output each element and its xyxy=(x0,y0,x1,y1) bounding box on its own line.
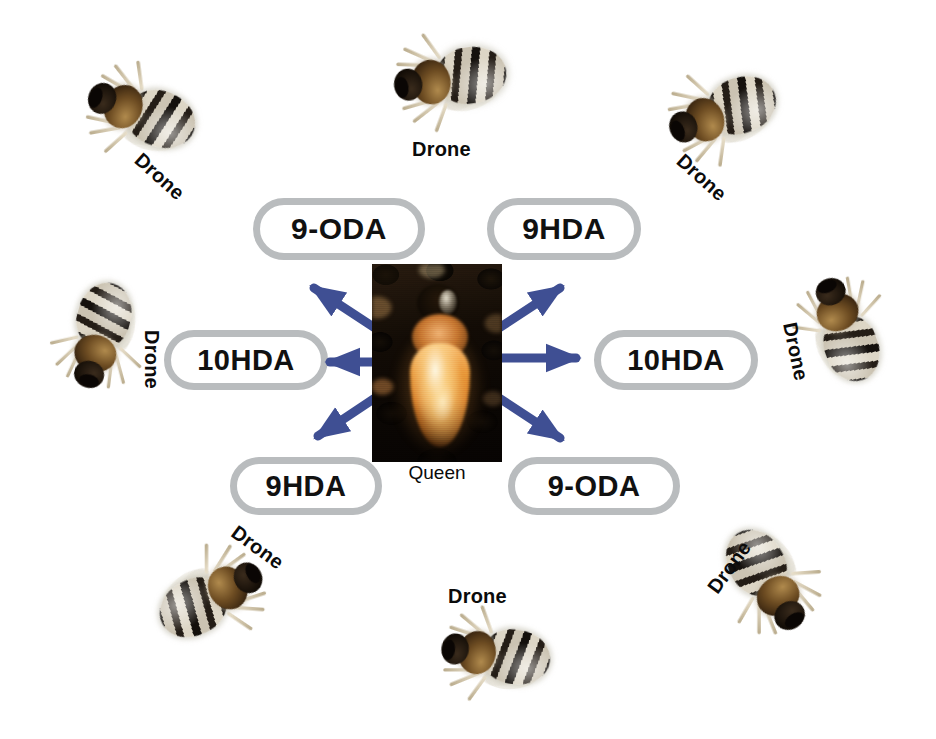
drone-bee xyxy=(41,270,154,401)
pheromone-pill-bottom-right[interactable]: 9-ODA xyxy=(508,457,680,515)
bee-leg xyxy=(718,137,726,167)
drone-label-top-center: Drone xyxy=(412,138,471,161)
pheromone-label-text: 10HDA xyxy=(627,344,725,377)
pheromone-label-text: 10HDA xyxy=(197,344,295,377)
bee-leg xyxy=(737,596,755,624)
pheromone-label-text: 9HDA xyxy=(522,212,606,246)
drone-bee xyxy=(385,23,515,131)
bee-leg xyxy=(226,611,253,631)
pheromone-label-text: 9HDA xyxy=(266,470,347,503)
pheromone-pill-top-left[interactable]: 9-ODA xyxy=(253,198,425,260)
bee-leg xyxy=(685,74,710,97)
drone-bee xyxy=(433,601,558,705)
bee-leg xyxy=(467,675,487,701)
bee-leg xyxy=(791,570,821,576)
bee-leg xyxy=(136,61,144,91)
arrow-upper-right xyxy=(496,288,560,330)
pheromone-pill-bottom-left[interactable]: 9HDA xyxy=(230,457,382,515)
bee-leg xyxy=(118,346,142,368)
arrow-lower-left xyxy=(318,396,378,436)
pheromone-label-text: 9-ODA xyxy=(548,470,641,503)
pheromone-pill-middle-right[interactable]: 10HDA xyxy=(594,330,758,390)
figure-canvas: DroneDroneDroneDroneDroneDroneDroneDrone… xyxy=(0,0,936,739)
drone-label-middle-left: Drone xyxy=(140,330,163,389)
photo-grain xyxy=(372,264,502,462)
queen-caption: Queen xyxy=(372,462,502,484)
pheromone-label-text: 9-ODA xyxy=(291,212,387,246)
queen-bee-photograph xyxy=(372,264,502,462)
bee-leg xyxy=(103,131,128,154)
pheromone-pill-middle-left[interactable]: 10HDA xyxy=(164,330,328,390)
bee-leg xyxy=(860,294,882,318)
arrow-upper-left xyxy=(314,288,378,330)
drone-label-bottom-center: Drone xyxy=(448,585,507,608)
pheromone-pill-top-right[interactable]: 9HDA xyxy=(487,198,641,260)
arrow-lower-right xyxy=(496,396,560,438)
drone-bee xyxy=(652,49,792,174)
bee-leg xyxy=(50,335,79,345)
bee-leg xyxy=(205,544,208,574)
bee-leg xyxy=(434,103,448,133)
